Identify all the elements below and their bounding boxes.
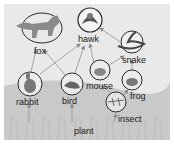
grass-ground [4,4,170,140]
label-snake: snake [122,55,146,65]
rabbit-icon [18,72,42,96]
fox-icon [16,13,62,43]
label-mouse: mouse [86,81,113,91]
hawk-icon [78,8,102,32]
label-insect: insect [118,114,142,124]
mouse-icon [90,60,110,80]
label-fox: fox [34,46,46,56]
label-bird: bird [62,96,77,106]
frog-icon [122,70,142,90]
bird-icon [61,73,83,95]
label-frog: frog [130,91,146,101]
food-web-diagram: fox hawk snake rabbit bird mouse frog in… [4,4,170,140]
label-plant: plant [74,126,94,136]
insect-icon [106,92,126,112]
label-hawk: hawk [78,34,99,44]
label-rabbit: rabbit [16,97,39,107]
snake-icon [118,31,144,53]
